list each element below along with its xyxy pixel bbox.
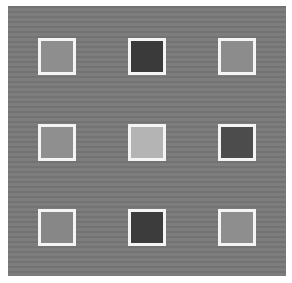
gray-swatch-r1c1 <box>38 38 76 75</box>
gray-swatch-r2c3 <box>218 124 256 161</box>
gray-swatch-r1c3 <box>218 38 256 75</box>
gray-swatch-r3c1 <box>38 209 76 246</box>
gray-swatch-r2c1 <box>38 124 76 161</box>
gray-panel <box>8 6 286 276</box>
gray-swatch-r3c3 <box>218 209 256 246</box>
gray-swatch-r1c2 <box>128 38 166 75</box>
gray-swatch-r2c2 <box>128 124 166 161</box>
gray-swatch-r3c2 <box>128 209 166 246</box>
